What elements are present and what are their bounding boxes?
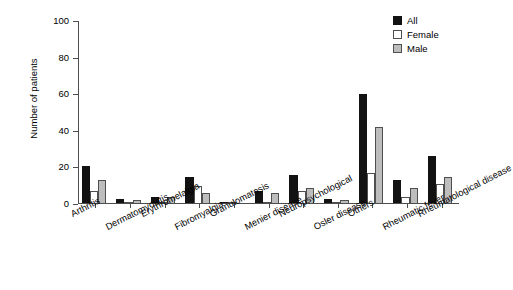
x-axis-tick [199, 204, 200, 208]
x-axis-tick [269, 204, 270, 208]
y-axis-tick-label: 80 [41, 52, 69, 63]
legend-label: Female [407, 29, 439, 40]
legend-label: All [407, 15, 418, 26]
legend-swatch-male-icon [393, 44, 402, 53]
y-axis-tick-label: 40 [41, 125, 69, 136]
legend-item-male: Male [393, 42, 439, 55]
y-axis-tick-label: 20 [41, 161, 69, 172]
y-axis-tick-label: 0 [41, 198, 69, 209]
y-axis-tick-label: 60 [41, 88, 69, 99]
legend-item-female: Female [393, 28, 439, 41]
legend-swatch-female-icon [393, 30, 402, 39]
bar-all [393, 180, 401, 204]
legend-item-all: All [393, 14, 439, 27]
bar-all [82, 166, 90, 204]
legend-label: Male [407, 43, 428, 54]
y-axis-title: Number of patients [28, 19, 39, 179]
y-axis-tick-label: 100 [41, 15, 69, 26]
x-axis-tick [338, 204, 339, 208]
bar-all [359, 94, 367, 204]
x-axis-tick [130, 204, 131, 208]
bar-male [410, 188, 418, 204]
x-axis-tick [407, 204, 408, 208]
legend-swatch-all-icon [393, 16, 402, 25]
bar-male [375, 127, 383, 204]
chart-legend: AllFemaleMale [393, 14, 439, 56]
